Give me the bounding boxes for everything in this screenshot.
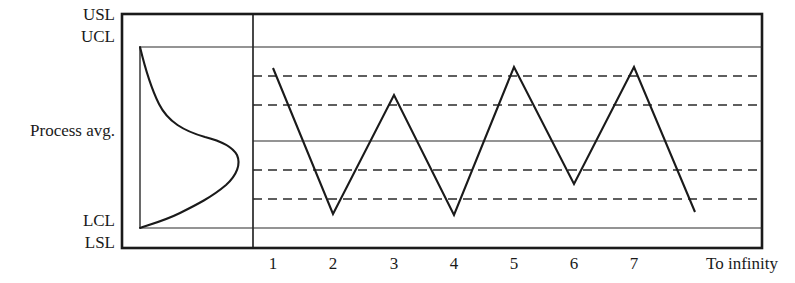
x-tick-label-2: 2 — [329, 254, 338, 273]
x-tick-label-6: 6 — [570, 254, 579, 273]
x-axis-to-infinity-label: To infinity — [706, 254, 779, 273]
spc-control-chart-figure: USL UCL Process avg. LCL LSL 1 2 3 4 5 6… — [0, 0, 795, 283]
x-tick-label-5: 5 — [510, 254, 519, 273]
normal-distribution-curve — [140, 47, 239, 228]
axis-label-usl: USL — [83, 5, 115, 24]
axis-label-lsl: LSL — [85, 233, 115, 252]
x-tick-label-7: 7 — [630, 254, 639, 273]
axis-label-process-average: Process avg. — [30, 121, 115, 140]
axis-label-lcl: LCL — [83, 211, 115, 230]
axis-label-ucl: UCL — [81, 27, 115, 46]
x-tick-label-4: 4 — [450, 254, 459, 273]
spc-chart-svg: USL UCL Process avg. LCL LSL 1 2 3 4 5 6… — [0, 0, 795, 283]
x-tick-label-1: 1 — [269, 254, 278, 273]
chart-outer-frame — [122, 14, 762, 248]
x-tick-label-3: 3 — [390, 254, 399, 273]
